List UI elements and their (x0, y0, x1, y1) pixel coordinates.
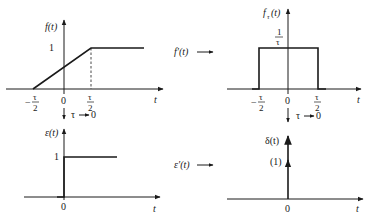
step-ytick-1: 1 (54, 151, 59, 162)
svg-text:τ: τ (296, 110, 300, 121)
f-xtick-0: 0 (61, 95, 66, 106)
svg-text:τ: τ (276, 37, 280, 47)
pulse-xtick-0: 0 (285, 95, 290, 106)
svg-text:2: 2 (259, 103, 264, 113)
impulse-weight-label: (1) (270, 156, 282, 168)
svg-text:τ: τ (71, 109, 75, 120)
panel-step: ε(t) 1 0 t (24, 127, 160, 214)
svg-text:1: 1 (277, 27, 282, 37)
f-xlabel: t (154, 94, 157, 105)
impulse-xlabel: t (356, 203, 359, 214)
pulse-ylabel: f τ (t) (263, 7, 281, 21)
panel-pulse: f τ (t) 1 τ t − τ 2 0 τ 2 (227, 7, 361, 113)
limit-arrow-right: τ 0 (288, 108, 321, 122)
f-xtick-neg-half-tau: − τ 2 (25, 92, 39, 113)
svg-text:0: 0 (316, 110, 321, 121)
impulse-xtick-0: 0 (285, 203, 290, 214)
svg-text:τ: τ (88, 92, 92, 102)
pulse-height-label: 1 τ (275, 27, 283, 47)
svg-text:f′(t): f′(t) (174, 46, 189, 58)
pulse-xtick-neg-half-tau: − τ 2 (251, 92, 265, 113)
step-xlabel: t (153, 203, 156, 214)
deriv-arrow-top: f′(t) (174, 46, 213, 58)
pulse-xlabel: t (357, 94, 360, 105)
step-curve (57, 157, 117, 197)
svg-text:2: 2 (33, 103, 38, 113)
deriv-arrow-bottom: ε′(t) (174, 159, 213, 171)
step-ylabel: ε(t) (45, 127, 59, 139)
svg-text:τ: τ (267, 13, 270, 21)
limit-arrow-left: τ 0 (64, 108, 96, 120)
svg-text:τ: τ (33, 92, 37, 102)
svg-text:0: 0 (91, 109, 96, 120)
step-xtick-0: 0 (61, 201, 66, 212)
diagram-canvas: f(t) 1 t − τ 2 0 τ 2 τ 0 ε(t) 1 0 t (0, 0, 367, 216)
f-ylabel: f(t) (45, 21, 58, 33)
f-ramp-curve (33, 48, 144, 89)
svg-text:τ: τ (315, 92, 319, 102)
panel-impulse: δ(t) (1) 0 t (227, 135, 363, 214)
svg-text:ε′(t): ε′(t) (174, 159, 190, 171)
svg-text:(t): (t) (271, 7, 281, 19)
svg-text:−: − (25, 97, 31, 108)
svg-text:τ: τ (259, 92, 263, 102)
impulse-ylabel: δ(t) (265, 135, 279, 147)
svg-text:−: − (251, 97, 257, 108)
f-ytick-1: 1 (49, 42, 54, 53)
pulse-curve (252, 48, 326, 89)
panel-f: f(t) 1 t − τ 2 0 τ 2 (6, 20, 163, 113)
